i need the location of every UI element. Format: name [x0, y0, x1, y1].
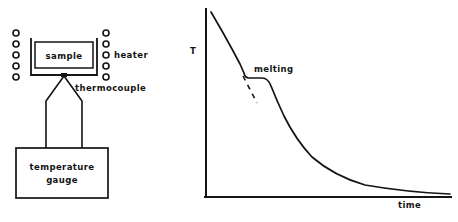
cooling-curve-chart: T time melting: [190, 8, 452, 210]
chart-x-axis-label: time: [398, 200, 421, 210]
heater-coil-icon: [103, 41, 109, 47]
temperature-gauge-label-line2: gauge: [46, 175, 78, 185]
temperature-gauge-label-line1: temperature: [30, 162, 95, 172]
figure-svg: sample heater thermocouple temperature g…: [0, 0, 458, 222]
temperature-gauge-box: [16, 148, 108, 198]
sample-label: sample: [46, 51, 83, 61]
figure-container: sample heater thermocouple temperature g…: [0, 0, 458, 222]
chart-y-axis-label: T: [190, 46, 196, 56]
heater-coil-icon: [103, 63, 109, 69]
heater-coil-icon: [13, 74, 19, 80]
heater-label: heater: [114, 50, 148, 60]
melting-annotation-label: melting: [254, 64, 293, 74]
heater-coil-icon: [13, 30, 19, 36]
heater-coil-icon: [103, 30, 109, 36]
extrapolated-cooling-dashed-line: [243, 76, 257, 103]
heater-coil-icon: [13, 41, 19, 47]
thermocouple-label: thermocouple: [75, 83, 146, 93]
apparatus-diagram: sample heater thermocouple temperature g…: [13, 30, 148, 198]
cooling-curve-line: [211, 12, 450, 194]
heater-coil-icon: [13, 52, 19, 58]
heater-coil-icon: [103, 52, 109, 58]
heater-coil-icon: [103, 74, 109, 80]
thermocouple-wire-left: [46, 76, 64, 148]
heater-coil-icon: [13, 63, 19, 69]
heater-coils-right: [103, 30, 109, 80]
heater-coils-left: [13, 30, 19, 80]
